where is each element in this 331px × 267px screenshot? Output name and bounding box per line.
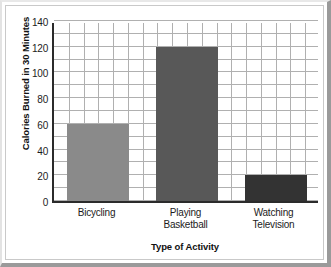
- x-axis-tick-labels: BicyclingPlayingBasketballWatchingTelevi…: [52, 207, 318, 237]
- y-axis-tick-label: 140: [10, 18, 48, 28]
- x-axis-tick-label-line: Playing: [141, 207, 230, 219]
- x-axis-tick-label-line: Bicycling: [52, 207, 141, 219]
- y-axis-tick-labels: 020406080100120140: [6, 23, 48, 203]
- y-axis-tick-label: 0: [10, 198, 48, 208]
- x-axis-tick-label-line: Television: [229, 219, 318, 231]
- bar-watching-television: [245, 175, 307, 201]
- x-axis-tick-label: Bicycling: [52, 207, 141, 219]
- x-axis-tick-label-line: Watching: [229, 207, 318, 219]
- y-axis-tick-label: 20: [10, 172, 48, 182]
- y-axis-tick-label: 100: [10, 69, 48, 79]
- figure-frame: Calories Burned in 30 Minutes 0204060801…: [0, 0, 331, 267]
- bar-series: [54, 23, 318, 201]
- figure-inner-border: Calories Burned in 30 Minutes 0204060801…: [5, 5, 324, 260]
- bar-playing-basketball: [156, 47, 218, 201]
- x-axis-tick-label: WatchingTelevision: [229, 207, 318, 230]
- x-axis-title: Type of Activity: [52, 241, 318, 252]
- gridline-horizontal: [54, 20, 318, 21]
- y-axis-tick-label: 80: [10, 95, 48, 105]
- bar-bicycling: [67, 124, 129, 201]
- y-axis-tick-label: 60: [10, 121, 48, 131]
- x-axis-tick-label-line: Basketball: [141, 219, 230, 231]
- plot-area: [52, 23, 318, 203]
- x-axis-tick-label: PlayingBasketball: [141, 207, 230, 230]
- y-axis-tick-label: 120: [10, 44, 48, 54]
- y-axis-tick-label: 40: [10, 147, 48, 157]
